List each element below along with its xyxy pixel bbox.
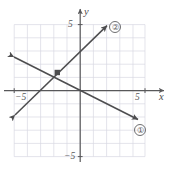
line-one-graph (14, 57, 138, 120)
y-axis-label: y (84, 7, 89, 18)
x-axis-positive-tick-label: 5 (135, 93, 140, 103)
graph-canvas (0, 0, 171, 169)
y-axis-negative-tick-label: −5 (64, 152, 75, 162)
intersection-point (55, 70, 60, 75)
x-axis-label: x (159, 92, 164, 103)
y-axis-positive-tick-label: 5 (68, 20, 73, 30)
x-axis-negative-tick-label: −5 (15, 93, 26, 103)
axis-lines (4, 9, 164, 162)
coordinate-plane-figure: −5 5 5 −5 x y ② ① (0, 0, 171, 169)
line-one-label: ① (134, 124, 146, 136)
line-two-label: ② (109, 21, 121, 33)
